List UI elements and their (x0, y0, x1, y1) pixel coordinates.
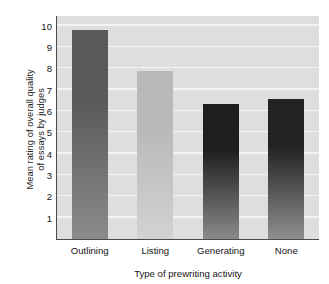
gridline (57, 24, 319, 25)
y-tick-label: 3 (34, 169, 52, 180)
y-tick-label: 4 (34, 148, 52, 159)
x-tick-label-listing: Listing (141, 245, 169, 256)
y-tick-label: 1 (34, 212, 52, 223)
y-tick-label: 9 (34, 41, 52, 52)
x-axis-tick-labels: OutliningListingGeneratingNone (57, 245, 319, 261)
x-axis-title: Type of prewriting activity (57, 268, 319, 279)
x-tick-label-generating: Generating (197, 245, 244, 256)
y-tick-label: 6 (34, 105, 52, 116)
bar-listing (137, 71, 173, 239)
x-axis-line (56, 239, 319, 240)
y-tick-label: 8 (34, 63, 52, 74)
y-tick-label: 10 (34, 20, 52, 31)
plot-area (57, 16, 319, 239)
bar-generating (203, 104, 239, 240)
bar-outlining (72, 30, 108, 239)
x-tick-label-none: None (275, 245, 298, 256)
y-tick-label: 7 (34, 84, 52, 95)
y-tick-label: 5 (34, 127, 52, 138)
bar-chart-figure: Mean rating of overall quality of essays… (0, 0, 329, 284)
bar-none (268, 99, 304, 239)
x-tick-label-outlining: Outlining (71, 245, 109, 256)
y-axis-tick-labels: 12345678910 (34, 17, 52, 239)
y-tick-label: 2 (34, 191, 52, 202)
